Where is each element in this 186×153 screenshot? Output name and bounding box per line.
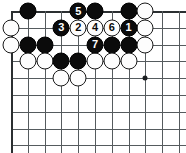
star-point-1 [143, 76, 148, 81]
stone-white-9-3 [137, 36, 154, 53]
move-number-label: 6 [109, 22, 115, 33]
stone-white-1-3 [3, 36, 20, 53]
move-stone-5: 5 [70, 3, 87, 20]
move-number-label: 5 [75, 5, 81, 16]
grid-line-horizontal-6 [11, 95, 186, 96]
stone-white-3-4 [36, 53, 53, 70]
grid-line-vertical-11 [179, 11, 180, 153]
stone-white-7-4 [103, 53, 120, 70]
stone-black-8-1 [120, 3, 137, 20]
stone-black-3-3 [36, 36, 53, 53]
stone-black-6-1 [87, 3, 104, 20]
move-stone-2: 2 [70, 19, 87, 36]
stone-white-9-1 [137, 3, 154, 20]
stone-white-4-5 [53, 70, 70, 87]
move-number-label: 2 [75, 22, 81, 33]
move-stone-7: 7 [87, 36, 104, 53]
go-board-diagram: 5324617 [0, 0, 186, 153]
stone-black-8-3 [120, 36, 137, 53]
grid-line-horizontal-5 [11, 78, 186, 79]
stone-white-2-4 [19, 53, 36, 70]
stone-black-4-4 [53, 53, 70, 70]
grid-line-horizontal-8 [11, 129, 186, 130]
move-number-label: 4 [92, 22, 98, 33]
grid-line-vertical-10 [162, 11, 163, 153]
stone-black-2-3 [19, 36, 36, 53]
grid-line-vertical-3 [45, 11, 46, 153]
stone-black-7-3 [103, 36, 120, 53]
stone-white-5-5 [70, 70, 87, 87]
grid-line-horizontal-7 [11, 112, 186, 113]
move-stone-1: 1 [120, 19, 137, 36]
stone-white-9-2 [137, 19, 154, 36]
stone-white-1-2 [3, 19, 20, 36]
move-stone-3: 3 [53, 19, 70, 36]
grid-line-horizontal-9 [11, 145, 186, 146]
move-number-label: 7 [92, 39, 98, 50]
grid-line-vertical-2 [28, 11, 29, 153]
stone-black-5-4 [70, 53, 87, 70]
stone-black-2-1 [19, 3, 36, 20]
move-number-label: 3 [58, 22, 64, 33]
move-stone-4: 4 [87, 19, 104, 36]
move-stone-6: 6 [103, 19, 120, 36]
stone-white-8-4 [120, 53, 137, 70]
move-number-label: 1 [126, 22, 132, 33]
stone-white-6-4 [87, 53, 104, 70]
